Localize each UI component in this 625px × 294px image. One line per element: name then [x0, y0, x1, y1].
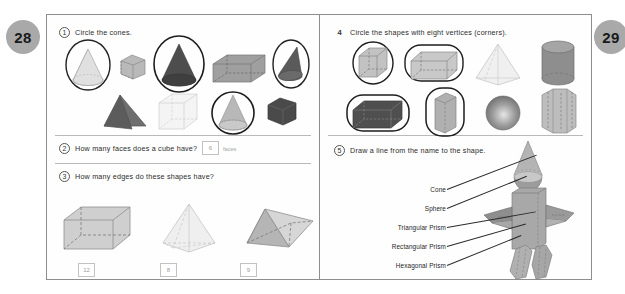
shape-pyramid-dark[interactable] — [102, 93, 148, 131]
question-3-number: 3 — [59, 171, 70, 182]
shape-cone-light[interactable] — [64, 39, 112, 91]
shape-q3-square-pyramid[interactable] — [159, 201, 219, 255]
q5-label-cone[interactable]: Cone — [390, 186, 446, 193]
shape-cube-white[interactable] — [155, 91, 201, 133]
shape-q3-rectangular-prism[interactable] — [61, 203, 133, 253]
question-4-header: 4 Circle the shapes with eight vertices … — [334, 27, 507, 38]
q5-label-sphere[interactable]: Sphere — [384, 205, 446, 212]
question-5-number: 5 — [334, 145, 345, 156]
shape-q4-cylinder[interactable] — [536, 39, 580, 87]
worksheet-spread: 28 29 1 Circle the cones. — [0, 0, 625, 294]
question-3-answer-box-2[interactable]: 8 — [160, 263, 177, 277]
question-5-header: 5 Draw a line from the name to the shape… — [334, 145, 486, 156]
shape-q4-rectangular-prism[interactable] — [403, 41, 465, 85]
shape-q4-sphere[interactable] — [483, 93, 523, 133]
shape-q4-tall-prism[interactable] — [424, 86, 466, 138]
question-3-prompt: How many edges do these shapes have? — [75, 172, 214, 181]
question-4-number: 4 — [334, 27, 345, 38]
question-2-prompt: How many faces does a cube have? — [75, 144, 197, 153]
shape-q4-rectangular-prism-dark[interactable] — [345, 91, 411, 135]
shape-q4-hexagonal-prism[interactable] — [534, 85, 582, 139]
divider — [55, 163, 311, 164]
question-4-prompt: Circle the shapes with eight vertices (c… — [350, 28, 507, 37]
shape-cone-gray[interactable] — [210, 89, 256, 135]
question-2-number: 2 — [59, 143, 70, 154]
q5-label-triangular-prism[interactable]: Triangular Prism — [356, 224, 446, 231]
question-2-answer-box[interactable]: 6 — [202, 141, 219, 155]
shape-cone-dark[interactable] — [152, 35, 206, 93]
question-2-header: 2 How many faces does a cube have? — [59, 143, 197, 154]
question-1-header: 1 Circle the cones. — [59, 27, 132, 38]
question-1-number: 1 — [59, 27, 70, 38]
shape-cone-dark-tilted[interactable] — [271, 39, 311, 89]
question-2-unit-label: faces — [223, 146, 236, 152]
shape-q4-square-pyramid[interactable] — [472, 41, 524, 87]
q5-label-hexagonal-prism[interactable]: Hexagonal Prism — [352, 262, 446, 269]
q5-label-rectangular-prism[interactable]: Rectangular Prism — [350, 243, 446, 250]
worksheet-page-right: 4 Circle the shapes with eight vertices … — [319, 14, 592, 280]
question-5-prompt: Draw a line from the name to the shape. — [350, 146, 486, 155]
worksheet-page-left: 1 Circle the cones. — [46, 14, 319, 280]
shape-q4-cube[interactable] — [351, 40, 395, 86]
shape-rectangular-prism-gray[interactable] — [210, 51, 268, 87]
question-3-answer-box-1[interactable]: 12 — [78, 263, 95, 277]
divider — [55, 135, 311, 136]
question-3-header: 3 How many edges do these shapes have? — [59, 171, 214, 182]
page-number-right: 29 — [594, 20, 625, 54]
shape-cube-dark[interactable] — [264, 95, 300, 129]
question-1-prompt: Circle the cones. — [75, 28, 132, 37]
shape-robot-figure[interactable] — [468, 139, 588, 281]
shape-q3-triangular-prism[interactable] — [243, 203, 317, 253]
question-3-answer-box-3[interactable]: 9 — [240, 263, 257, 277]
page-number-left: 28 — [6, 20, 40, 54]
shape-cube-gray-small[interactable] — [116, 52, 148, 82]
